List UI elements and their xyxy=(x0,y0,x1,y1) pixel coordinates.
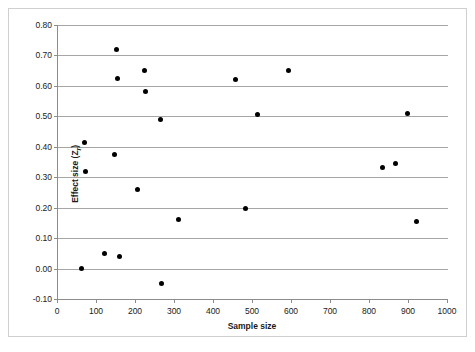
y-axis-title: Effect size (Zr) xyxy=(70,99,82,249)
data-point xyxy=(158,117,163,122)
x-tick-label: 800 xyxy=(362,306,376,316)
data-point xyxy=(102,251,107,256)
data-point xyxy=(135,187,140,192)
y-tick-mark xyxy=(54,208,58,209)
x-axis-title: Sample size xyxy=(57,321,447,331)
data-point xyxy=(115,76,120,81)
data-point xyxy=(142,68,147,73)
x-tick-label: 500 xyxy=(245,306,259,316)
gridline xyxy=(58,208,448,209)
y-tick-label: 0.30 xyxy=(35,172,52,182)
x-tick-mark xyxy=(369,299,370,303)
y-tick-label: 0.20 xyxy=(35,203,52,213)
y-tick-label: 0.80 xyxy=(35,20,52,30)
x-tick-label: 0 xyxy=(55,306,60,316)
data-point xyxy=(83,169,88,174)
x-tick-mark xyxy=(330,299,331,303)
x-tick-mark xyxy=(57,299,58,303)
x-tick-mark xyxy=(174,299,175,303)
data-point xyxy=(414,219,419,224)
gridline xyxy=(58,55,448,56)
data-point xyxy=(233,77,238,82)
y-tick-mark xyxy=(54,116,58,117)
x-tick-mark xyxy=(213,299,214,303)
data-point xyxy=(117,254,122,259)
plot-area: Effect size (Zr) xyxy=(57,25,447,299)
y-tick-mark xyxy=(54,147,58,148)
data-point xyxy=(82,140,87,145)
data-point xyxy=(286,68,291,73)
y-tick-label: 0.10 xyxy=(35,233,52,243)
gridline xyxy=(58,147,448,148)
y-tick-label: 0.50 xyxy=(35,111,52,121)
y-tick-mark xyxy=(54,238,58,239)
y-tick-mark xyxy=(54,25,58,26)
data-point xyxy=(112,152,117,157)
gridline xyxy=(58,25,448,26)
data-point xyxy=(405,111,410,116)
x-tick-label: 200 xyxy=(128,306,142,316)
gridline xyxy=(58,86,448,87)
x-tick-mark xyxy=(447,299,448,303)
y-tick-mark xyxy=(54,269,58,270)
y-tick-label: -0.10 xyxy=(33,294,52,304)
y-axis-tick-labels: -0.100.000.100.200.300.400.500.600.700.8… xyxy=(0,25,52,299)
data-point xyxy=(176,217,181,222)
x-tick-label: 900 xyxy=(401,306,415,316)
x-tick-label: 1000 xyxy=(438,306,457,316)
data-point xyxy=(159,281,164,286)
y-tick-label: 0.60 xyxy=(35,81,52,91)
x-tick-label: 300 xyxy=(167,306,181,316)
x-tick-label: 600 xyxy=(284,306,298,316)
data-point xyxy=(243,206,248,211)
y-tick-mark xyxy=(54,55,58,56)
x-tick-mark xyxy=(291,299,292,303)
x-tick-mark xyxy=(96,299,97,303)
data-point xyxy=(79,266,84,271)
x-tick-label: 700 xyxy=(323,306,337,316)
x-tick-mark xyxy=(252,299,253,303)
x-tick-mark xyxy=(135,299,136,303)
data-point xyxy=(143,89,148,94)
gridline xyxy=(58,269,448,270)
gridline xyxy=(58,177,448,178)
data-point xyxy=(380,165,385,170)
y-tick-label: 0.40 xyxy=(35,142,52,152)
x-axis-tick-marks xyxy=(57,299,448,304)
x-tick-label: 400 xyxy=(206,306,220,316)
gridline xyxy=(58,116,448,117)
data-point xyxy=(393,161,398,166)
x-tick-label: 100 xyxy=(89,306,103,316)
gridline xyxy=(58,238,448,239)
x-tick-mark xyxy=(408,299,409,303)
y-tick-mark xyxy=(54,177,58,178)
scatter-plot-figure: -0.100.000.100.200.300.400.500.600.700.8… xyxy=(0,0,475,352)
y-tick-mark xyxy=(54,86,58,87)
data-point xyxy=(114,47,119,52)
y-tick-label: 0.00 xyxy=(35,264,52,274)
x-axis-tick-labels: 01002003004005006007008009001000 xyxy=(57,306,448,320)
y-tick-label: 0.70 xyxy=(35,50,52,60)
